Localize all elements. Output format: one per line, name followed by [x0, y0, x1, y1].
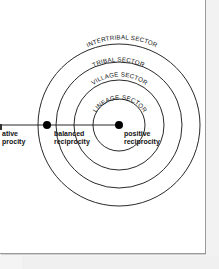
balanced-node-dot [43, 121, 51, 129]
positive-label-line2: reciprocity [124, 138, 160, 146]
balanced-label-line1: balanced [54, 130, 84, 137]
tribal-sector-label: TRIBAL SECTOR [91, 56, 146, 69]
reciprocity-sectors-diagram: LINEAGE SECTOR VILLAGE SECTOR TRIBAL SEC… [0, 0, 219, 269]
positive-node-dot [115, 121, 123, 129]
balanced-label-line2: reciprocity [54, 138, 90, 146]
village-sector-label: VILLAGE SECTOR [90, 71, 150, 87]
negative-label-line2: procity [2, 138, 25, 146]
negative-label-line1: ative [2, 130, 18, 137]
intertribal-sector-label: INTERTRIBAL SECTOR [85, 33, 159, 48]
positive-label-line1: positive [124, 130, 151, 138]
